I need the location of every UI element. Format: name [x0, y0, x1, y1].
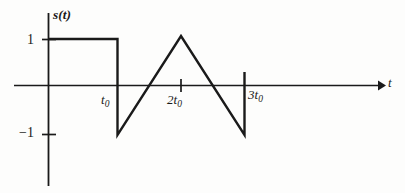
x-tick-label-3t0-sub: 0: [258, 94, 263, 104]
x-axis-arrowhead: [378, 81, 386, 91]
x-tick-label-3t0: 3t0: [248, 88, 263, 102]
y-tick-label-positive-one: 1: [27, 33, 34, 47]
plot-canvas: [0, 0, 405, 193]
y-tick-label-negative-one: −1: [19, 126, 34, 140]
x-tick-label-t0: t0: [101, 93, 109, 107]
x-tick-label-3t0-main: 3t: [248, 87, 258, 102]
x-tick-label-2t0-sub: 0: [177, 99, 182, 109]
x-tick-label-2t0-main: 2t: [167, 92, 177, 107]
signal-waveform-figure: s(t) t 1 −1 t0 2t0 3t0: [0, 0, 405, 193]
x-axis-label: t: [388, 76, 392, 89]
y-axis-label: s(t): [53, 8, 71, 22]
x-tick-label-t0-sub: 0: [105, 99, 110, 109]
x-axis-group: [14, 81, 386, 91]
x-tick-label-2t0: 2t0: [167, 93, 182, 107]
tick-marks-group: [42, 40, 181, 135]
